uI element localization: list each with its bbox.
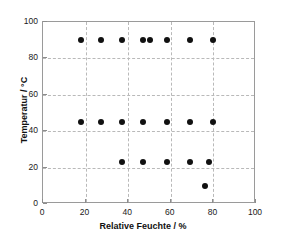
data-point [98,37,104,43]
gridline-horizontal [43,168,254,169]
data-point [140,159,146,165]
x-tick-mark [170,199,171,203]
gridline-horizontal [43,131,254,132]
x-tick-label: 60 [155,207,185,217]
y-axis-title: Temperatur / °C [19,30,29,190]
data-point [119,159,125,165]
scatter-chart: 020406080100 020406080100 Relative Feuch… [0,0,286,240]
gridline-horizontal [43,58,254,59]
y-tick-mark [43,94,47,95]
x-tick-mark [212,199,213,203]
y-tick-mark [43,130,47,131]
x-tick-label: 80 [197,207,227,217]
x-tick-label: 40 [112,207,142,217]
x-tick-mark [85,199,86,203]
gridline-vertical [86,22,87,202]
x-tick-label: 0 [27,207,57,217]
data-point [210,37,216,43]
data-point [119,119,125,125]
data-point [187,119,193,125]
x-tick-label: 20 [70,207,100,217]
y-tick-mark [43,167,47,168]
gridline-horizontal [43,95,254,96]
x-axis-title: Relative Feuchte / % [0,221,286,231]
x-tick-mark [127,199,128,203]
y-tick-label: 0 [12,198,38,208]
gridline-vertical [213,22,214,202]
data-point [164,119,170,125]
y-tick-mark [43,57,47,58]
data-point [98,119,104,125]
y-tick-mark [43,203,47,204]
data-point [140,37,146,43]
data-point [164,159,170,165]
data-point [147,37,153,43]
plot-area [42,21,255,203]
data-point [187,159,193,165]
data-point [78,119,84,125]
data-point [202,183,208,189]
data-point [206,159,212,165]
data-point [210,119,216,125]
x-tick-mark [255,199,256,203]
y-tick-label: 100 [12,16,38,26]
x-tick-label: 100 [240,207,270,217]
gridline-vertical [128,22,129,202]
data-point [140,119,146,125]
data-point [78,37,84,43]
data-point [164,37,170,43]
y-tick-mark [43,21,47,22]
data-point [187,37,193,43]
gridline-vertical [171,22,172,202]
data-point [119,37,125,43]
